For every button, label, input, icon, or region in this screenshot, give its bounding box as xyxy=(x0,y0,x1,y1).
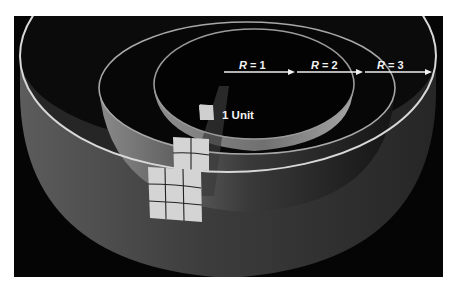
unit-tile-r1 xyxy=(199,104,214,120)
bowls-illustration xyxy=(14,16,443,277)
radius-label-3: R = 3 xyxy=(377,59,404,71)
grid-r2-2x2 xyxy=(173,137,209,171)
inverse-square-diagram: R = 1 R = 2 R = 3 1 Unit xyxy=(14,16,443,277)
radius-label-1: R = 1 xyxy=(239,59,266,71)
grid-r3-3x3 xyxy=(148,167,202,222)
unit-label: 1 Unit xyxy=(222,109,254,121)
radius-label-2: R = 2 xyxy=(311,59,338,71)
